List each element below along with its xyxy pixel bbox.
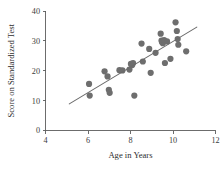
x-axis: 4681012: [43, 131, 219, 146]
x-tick-label: 10: [169, 136, 177, 145]
plot-canvas: 010203040 4681012 Age in Years Score on …: [0, 0, 223, 173]
data-point: [158, 31, 164, 37]
y-tick-label: 0: [36, 126, 40, 135]
x-tick-label: 8: [128, 136, 132, 145]
data-point: [107, 90, 113, 96]
y-tick-label: 30: [32, 37, 40, 46]
data-point: [183, 48, 189, 54]
data-point: [146, 46, 152, 52]
x-axis-ticks: 4681012: [43, 131, 219, 146]
x-axis-title: Age in Years: [108, 150, 153, 160]
x-tick-label: 4: [43, 136, 47, 145]
data-points-layer: [86, 19, 189, 98]
y-tick-label: 40: [32, 7, 40, 16]
x-tick-label: 6: [86, 136, 90, 145]
data-point: [162, 60, 168, 66]
data-point: [167, 56, 173, 62]
data-point: [131, 92, 137, 98]
data-point: [174, 28, 180, 34]
x-tick-label: 12: [211, 136, 219, 145]
y-tick-label: 10: [32, 97, 40, 106]
data-point: [104, 73, 110, 79]
y-axis-title: Score on Standardized Test: [6, 23, 16, 117]
y-axis-ticks: 010203040: [32, 7, 46, 136]
y-tick-label: 20: [32, 67, 40, 76]
regression-trend-line: [69, 27, 197, 104]
data-point: [148, 70, 154, 76]
data-point: [86, 81, 92, 87]
data-point: [175, 42, 181, 48]
scatter-chart-figure: 010203040 4681012 Age in Years Score on …: [0, 0, 223, 173]
data-point: [172, 19, 178, 25]
y-axis: 010203040: [32, 7, 46, 136]
data-point: [138, 40, 144, 46]
